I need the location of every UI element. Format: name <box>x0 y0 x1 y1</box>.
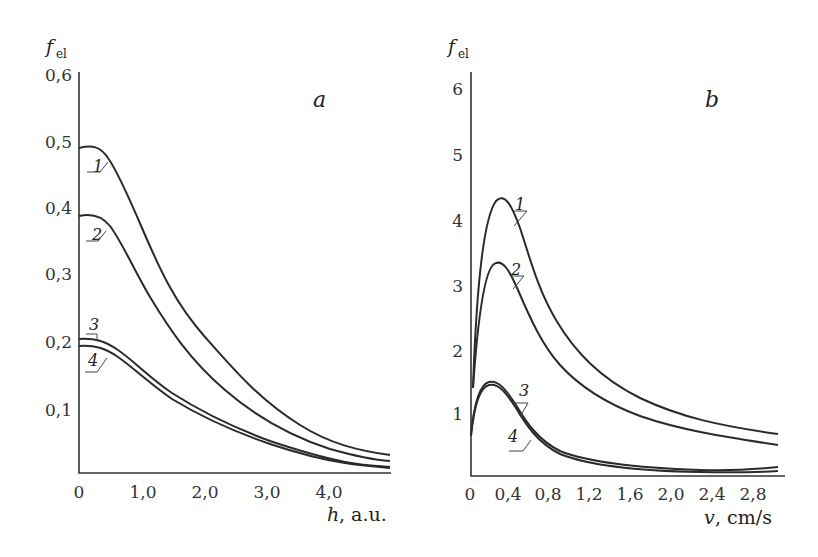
chart-a-x-tick: 2,0 <box>191 482 218 502</box>
chart-a-y-tick: 0,3 <box>45 264 72 284</box>
chart-b-y-tick: 4 <box>452 211 463 231</box>
chart-a-x-tick: 4,0 <box>315 482 342 502</box>
chart-a: f el 0,1 0,2 0,3 0,4 0,5 0,6 0 1,0 2,0 3… <box>44 35 391 525</box>
chart-a-curve-2 <box>79 215 390 461</box>
chart-b-x-tick: 1,2 <box>575 484 602 504</box>
chart-b-panel-label: b <box>705 87 719 112</box>
chart-b-curve-label-3: 3 <box>519 381 529 400</box>
chart-b-x-tick: 2,0 <box>657 484 684 504</box>
chart-b-x-tick: 1,6 <box>616 484 643 504</box>
chart-a-curve-label-4: 4 <box>87 351 98 370</box>
chart-b-x-tick: 2,4 <box>698 484 725 504</box>
chart-a-curve-label-3: 3 <box>89 315 99 334</box>
chart-a-x-axis-unit: , a.u. <box>339 503 387 525</box>
chart-b-x-tick: 0,4 <box>494 484 521 504</box>
chart-a-y-axis-symbol: f <box>44 35 56 57</box>
chart-b-x-axis-unit: , cm/s <box>715 506 772 528</box>
chart-a-axes <box>79 72 391 473</box>
chart-a-curve-1 <box>79 147 390 455</box>
chart-a-x-tick: 1,0 <box>129 482 156 502</box>
chart-b-y-tick: 1 <box>452 404 463 424</box>
chart-a-y-tick: 0,2 <box>45 332 72 352</box>
chart-a-curve-label-1: 1 <box>93 157 103 176</box>
chart-a-x-tick: 3,0 <box>253 482 280 502</box>
chart-a-curve-3 <box>79 339 390 467</box>
chart-b-x-axis-symbol: v <box>704 506 715 528</box>
chart-a-y-axis-subscript: el <box>56 47 67 61</box>
chart-a-curve-4 <box>79 346 390 468</box>
chart-a-x-axis-symbol: h <box>327 503 339 525</box>
chart-b: f el 1 2 3 4 5 6 0 0,4 0,8 1,2 1,6 2,0 2… <box>446 35 785 528</box>
chart-b-x-origin: 0 <box>465 484 476 504</box>
chart-b-y-axis-symbol: f <box>446 35 458 57</box>
chart-b-x-tick: 2,8 <box>739 484 766 504</box>
chart-b-y-tick: 6 <box>452 79 463 99</box>
chart-b-y-tick: 2 <box>452 341 463 361</box>
chart-a-x-origin: 0 <box>74 482 85 502</box>
figure: f el 0,1 0,2 0,3 0,4 0,5 0,6 0 1,0 2,0 3… <box>0 0 818 557</box>
chart-b-y-tick: 5 <box>452 145 463 165</box>
chart-b-y-tick: 3 <box>452 276 463 296</box>
chart-a-panel-label: a <box>313 87 326 112</box>
chart-a-y-tick: 0,6 <box>45 65 72 85</box>
chart-b-curve-label-4: 4 <box>507 427 518 446</box>
chart-b-x-tick: 0,8 <box>534 484 561 504</box>
chart-a-y-tick: 0,4 <box>45 198 72 218</box>
chart-a-y-tick: 0,5 <box>45 132 72 152</box>
chart-a-y-tick: 0,1 <box>45 400 72 420</box>
chart-b-curve-2 <box>473 263 778 445</box>
chart-b-y-axis-subscript: el <box>458 47 469 61</box>
